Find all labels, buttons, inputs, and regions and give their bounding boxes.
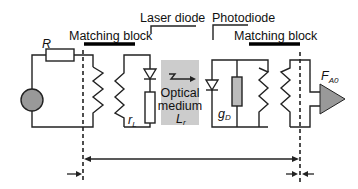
signal-source-icon bbox=[21, 89, 43, 111]
photodiode-icon bbox=[206, 80, 218, 90]
optical-medium-line1: Optical bbox=[161, 86, 200, 100]
photodiode-top-wire bbox=[212, 60, 268, 72]
amplifier-label: FA0 bbox=[321, 69, 339, 85]
resistor-r bbox=[46, 49, 74, 61]
source-bottom-wire bbox=[32, 111, 93, 127]
circuit-diagram: R Matching block Laser diode Photodiode … bbox=[0, 0, 358, 189]
optical-medium-line2: medium bbox=[158, 99, 202, 113]
transformer-left-primary-icon bbox=[93, 67, 103, 118]
matching-block-right-label: Matching block bbox=[234, 29, 318, 43]
source-top-wire bbox=[32, 55, 46, 92]
photodiode-conductance-icon bbox=[232, 77, 242, 106]
photodiode-conductance-label: gD bbox=[218, 107, 231, 122]
laser-resistance-label: rL bbox=[128, 113, 137, 129]
laser-diode-bracket bbox=[151, 26, 196, 33]
matching-block-left-label: Matching block bbox=[69, 29, 153, 43]
photodiode-label: Photodiode bbox=[212, 11, 275, 25]
transformer-right-primary-icon bbox=[259, 68, 268, 127]
laser-resistor-icon bbox=[145, 92, 155, 123]
laser-diode-label: Laser diode bbox=[140, 11, 205, 25]
laser-diode-icon bbox=[144, 69, 156, 79]
amplifier-icon bbox=[320, 84, 345, 114]
